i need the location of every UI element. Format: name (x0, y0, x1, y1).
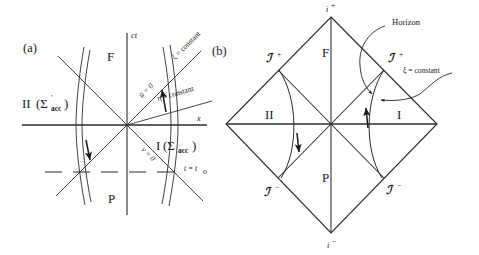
panel-b-group: (b) i + i − ℐ + ℐ + ℐ (212, 1, 452, 250)
panel-b-scri-minus-left-superscript: − (275, 183, 279, 192)
panel-b-region-future: F (322, 45, 329, 60)
panel-b-scri-plus-left-superscript: + (277, 50, 281, 59)
panel-a-region-right-subscript: acc (178, 146, 189, 155)
panel-a-region-left-prime: ' (51, 94, 53, 103)
panel-a-null-upper-left (58, 56, 127, 125)
panel-a-group: (a) ct x F P I (Σ acc ) II (Σ acc ' ) (22, 29, 212, 215)
panel-a-region-right: I (Σ acc ) (156, 138, 196, 155)
panel-b-region-right: I (397, 107, 401, 122)
panel-b-point-i-plus: i + (326, 1, 335, 14)
panel-b-scri-plus-left: ℐ + (266, 50, 281, 65)
panel-a-region-future: F (107, 49, 114, 64)
panel-a-zeta-constant-label: ζ = constant (170, 29, 203, 62)
panel-b-region-past: P (322, 170, 329, 185)
panel-b-scri-minus-right-glyph: ℐ (386, 183, 394, 197)
panel-a-x-label: x (196, 113, 201, 123)
panel-b-tag: (b) (212, 44, 227, 58)
panel-b-scri-plus-right-superscript: + (399, 50, 403, 59)
panel-b-xi-constant-label: ξ = constant (403, 66, 441, 75)
panel-b-scri-minus-left-glyph: ℐ (264, 185, 272, 199)
panel-b-scri-plus-right-glyph: ℐ (388, 51, 396, 65)
panel-b-i-plus-letter: i (326, 4, 329, 14)
panel-a-constant-time-text: t = t (184, 164, 198, 173)
panel-b-scri-minus-left: ℐ − (264, 183, 279, 199)
panel-a-region-left-subscript: acc (51, 104, 62, 113)
panel-b-scri-minus-right: ℐ − (386, 181, 401, 197)
panel-a-region-left-open: (Σ (36, 96, 48, 111)
panel-a-constant-time-subscript: o (203, 167, 207, 176)
panel-b-horizon-label: Horizon (392, 17, 421, 27)
panel-b-xi-leader (381, 73, 452, 100)
panel-a-region-left: II (Σ acc ' ) (22, 94, 68, 113)
panel-b-region-left: II (265, 107, 274, 122)
panel-b-i-plus-superscript: + (331, 1, 335, 10)
panel-a-region-right-open: (Σ (163, 138, 175, 153)
panel-a-v-zero-label: v = 0 (140, 145, 158, 163)
panel-a-arrow-left-worldline (86, 140, 90, 160)
panel-a-region-right-close: ) (192, 138, 196, 153)
panel-b-i-minus-superscript: − (332, 237, 336, 246)
panel-a-hyperbola-left-outer (76, 47, 85, 205)
panel-a-region-left-numeral: II (22, 96, 31, 111)
panel-a-ct-label: ct (131, 30, 138, 40)
panel-a-tag: (a) (23, 41, 37, 55)
panel-a-constant-time-label: t = t o (184, 164, 207, 176)
panel-b-scri-plus-left-glyph: ℐ (266, 51, 274, 65)
figure-container: (a) ct x F P I (Σ acc ) II (Σ acc ' ) (0, 0, 479, 255)
panel-b-point-i-minus: i − (327, 237, 336, 250)
panel-a-hyperbola-left-inner (82, 50, 91, 202)
panel-b-arrow-left-worldline (297, 133, 299, 152)
panel-b-scri-plus-right: ℐ + (388, 50, 403, 65)
panel-a-ubar-zero-label: ū = 0 (137, 81, 155, 99)
physics-figure-svg: (a) ct x F P I (Σ acc ) II (Σ acc ' ) (0, 0, 479, 255)
panel-a-null-lower-left (56, 125, 127, 196)
panel-a-region-past: P (108, 191, 115, 206)
panel-a-region-right-numeral: I (156, 138, 160, 153)
panel-b-horizon-leader (360, 26, 385, 94)
panel-b-arrow-right-worldline (366, 108, 368, 128)
panel-b-i-minus-letter: i (327, 240, 330, 250)
panel-a-region-left-close: ) (64, 96, 68, 111)
panel-b-scri-minus-right-superscript: − (397, 181, 401, 190)
